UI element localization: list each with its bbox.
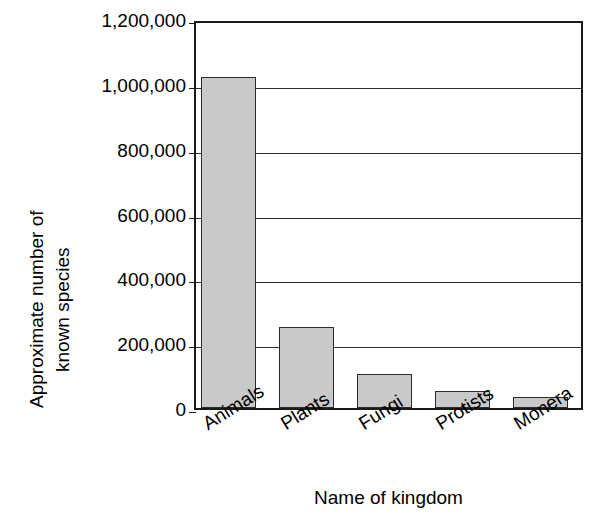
- bar-animals: [201, 77, 256, 408]
- y-axis-tick-label: 600,000: [66, 206, 186, 225]
- y-axis-tick-label: 400,000: [66, 270, 186, 289]
- y-axis-tick-label: 800,000: [66, 141, 186, 160]
- y-axis-tick-labels: 1,200,0001,000,000800,000600,000400,0002…: [66, 0, 186, 430]
- y-axis-tick-mark: [189, 282, 196, 283]
- bar-series: [196, 23, 581, 408]
- y-axis-title: Approximate number of known species: [0, 0, 70, 430]
- plot-area: [194, 21, 583, 410]
- y-axis-tick-mark: [189, 153, 196, 154]
- y-axis-tick-mark: [189, 347, 196, 348]
- y-axis-tick-label: 200,000: [66, 335, 186, 354]
- y-axis-tick-mark: [189, 23, 196, 24]
- y-axis-tick-label: 1,000,000: [66, 76, 186, 95]
- y-axis-tick-mark: [189, 88, 196, 89]
- y-axis-title-line-1: Approximate number of: [26, 211, 48, 409]
- x-axis-title: Name of kingdom: [194, 487, 583, 509]
- y-axis-tick-mark: [189, 218, 196, 219]
- y-axis-tick-label: 0: [66, 400, 186, 419]
- bar-chart-figure: Approximate number of known species 1,20…: [0, 0, 594, 526]
- x-axis-tick-labels: AnimalsPlantsFungiProtistsMonera: [194, 410, 583, 480]
- y-axis-tick-label: 1,200,000: [66, 11, 186, 30]
